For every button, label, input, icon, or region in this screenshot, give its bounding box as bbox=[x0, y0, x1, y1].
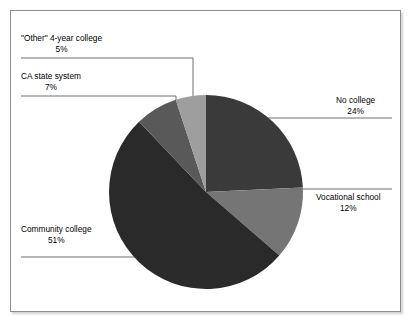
pie-label-ca-state-system: CA state system 7% bbox=[21, 71, 81, 92]
pie-label-no-college: No college 24% bbox=[336, 95, 375, 116]
pie-label-vocational-school: Vocational school 12% bbox=[316, 192, 381, 213]
pie-label-other-4year-college-title: "Other" 4-year college bbox=[21, 33, 102, 44]
pie-label-community-college-title: Community college bbox=[21, 224, 92, 235]
pie-label-community-college: Community college 51% bbox=[21, 224, 92, 245]
pie-label-ca-state-system-value: 7% bbox=[21, 82, 81, 93]
leader-line-castate bbox=[21, 96, 176, 112]
pie-label-community-college-value: 51% bbox=[21, 235, 92, 246]
pie-slices bbox=[109, 95, 303, 289]
pie-label-other-4year-college-value: 5% bbox=[21, 44, 102, 55]
pie-label-other-4year-college: "Other" 4-year college 5% bbox=[21, 33, 102, 54]
pie-label-no-college-value: 24% bbox=[336, 106, 375, 117]
pie-label-vocational-school-title: Vocational school bbox=[316, 192, 381, 203]
pie-label-no-college-title: No college bbox=[336, 95, 375, 106]
pie-label-ca-state-system-title: CA state system bbox=[21, 71, 81, 82]
pie-slice-no-college bbox=[206, 95, 303, 192]
chart-screenshot: "Other" 4-year college 5% CA state syste… bbox=[0, 0, 414, 324]
pie-label-vocational-school-value: 12% bbox=[316, 203, 381, 214]
